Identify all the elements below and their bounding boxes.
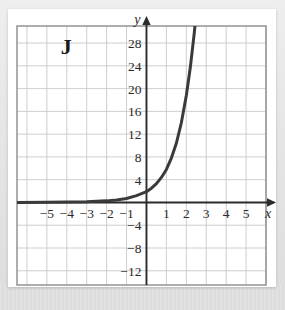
y-tick-label: 20 [128, 82, 142, 97]
x-tick-label: 5 [243, 206, 250, 221]
plot-background [17, 26, 266, 285]
y-tick-label: −4 [127, 218, 142, 233]
x-tick-label: 2 [183, 206, 190, 221]
y-tick-label: 8 [135, 150, 142, 165]
graph-figure: −5−4−3−2−112345 282420161284−4−8−12 x y … [8, 9, 276, 294]
y-tick-label: 4 [135, 173, 142, 188]
x-tick-label: −3 [80, 206, 95, 221]
figure-label: J [61, 34, 72, 59]
y-tick-label: −12 [120, 264, 141, 279]
x-tick-label: −4 [60, 206, 75, 221]
y-tick-label: 16 [128, 104, 142, 119]
x-axis-arrowhead [267, 198, 276, 206]
x-tick-label: 1 [163, 206, 170, 221]
y-tick-label: 12 [128, 127, 142, 142]
x-tick-label: −2 [99, 206, 113, 221]
y-axis-label: y [132, 12, 141, 27]
y-axis-arrowhead [142, 16, 150, 25]
x-tick-label: 4 [223, 206, 230, 221]
y-tick-label: −8 [127, 241, 142, 256]
y-tick-label: 28 [128, 36, 142, 51]
y-tick-label: 24 [128, 59, 142, 74]
x-tick-label: −5 [40, 206, 55, 221]
x-tick-label: 3 [203, 206, 210, 221]
coordinate-plane-graph: −5−4−3−2−112345 282420161284−4−8−12 x y … [8, 9, 276, 294]
x-axis-label: x [264, 206, 272, 221]
